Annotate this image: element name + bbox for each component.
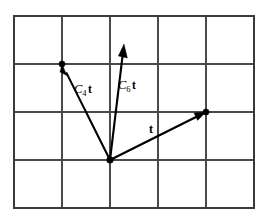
vector-label-c4t-subscript: 4	[82, 88, 87, 98]
vector-t-shaft	[110, 117, 197, 160]
vector-label-c6t-operand: t	[132, 79, 136, 91]
vector-origin-dot	[107, 157, 114, 164]
figure-root: C4t C6t t	[0, 0, 269, 223]
vector-c6t-arrowhead	[118, 44, 127, 58]
vector-t	[110, 109, 209, 160]
vector-label-t: t	[149, 122, 153, 136]
vector-label-c6t-subscript: 6	[126, 84, 130, 94]
vector-c6t-shaft	[110, 56, 123, 161]
vector-c6t	[110, 44, 127, 160]
vector-label-c6t: C6t	[118, 78, 136, 94]
vector-c4t-endpoint-dot	[59, 61, 65, 67]
vector-t-endpoint-dot	[203, 109, 209, 115]
vector-c4t	[59, 61, 110, 160]
vector-label-c4t: C4t	[74, 82, 92, 98]
vector-label-c4t-operand: t	[88, 83, 92, 95]
vector-diagram: C4t C6t t	[0, 0, 269, 223]
